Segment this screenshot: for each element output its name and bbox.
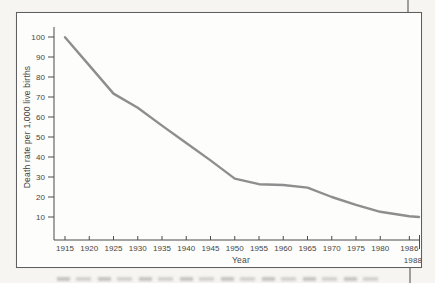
x-tick-label: 1965 xyxy=(298,244,317,253)
x-tick-label: 1935 xyxy=(153,244,172,253)
y-tick-label: 10 xyxy=(36,213,46,222)
x-tick-label: 1960 xyxy=(274,244,293,253)
death-rate-line xyxy=(65,37,419,217)
y-tick-label: 30 xyxy=(36,173,46,182)
x-axis-end-year-label: 1988 xyxy=(404,256,421,265)
x-tick-label: 1925 xyxy=(104,244,123,253)
infant-death-rate-chart: Death rate per 1,000 live births Year 19… xyxy=(17,13,421,267)
x-tick-label: 1975 xyxy=(347,244,366,253)
y-tick-label: 50 xyxy=(36,133,46,142)
x-tick-label: 1930 xyxy=(129,244,148,253)
y-tick-label: 80 xyxy=(36,73,46,82)
cropped-caption-text xyxy=(57,277,379,281)
x-axis-label: Year xyxy=(232,255,250,265)
x-tick-label: 1920 xyxy=(80,244,99,253)
scanned-page: { "chart_data": { "type": "line", "title… xyxy=(0,0,435,283)
x-tick-label: 1980 xyxy=(371,244,390,253)
figure-box: Death rate per 1,000 live births Year 19… xyxy=(16,12,422,268)
x-tick-label: 1955 xyxy=(250,244,269,253)
x-tick-label: 1940 xyxy=(177,244,196,253)
y-tick-label: 100 xyxy=(31,33,45,42)
page-edge-line xyxy=(409,267,411,283)
y-tick-label: 70 xyxy=(36,93,46,102)
x-tick-label: 1970 xyxy=(323,244,342,253)
y-tick-label: 40 xyxy=(36,153,46,162)
y-tick-label: 60 xyxy=(36,113,46,122)
x-tick-label: 1915 xyxy=(56,244,75,253)
y-tick-label: 90 xyxy=(36,53,46,62)
x-tick-label: 1986 xyxy=(400,244,419,253)
y-axis-label: Death rate per 1,000 live births xyxy=(22,66,32,189)
y-tick-label: 20 xyxy=(36,193,46,202)
x-tick-label: 1945 xyxy=(201,244,220,253)
x-tick-label: 1950 xyxy=(226,244,245,253)
